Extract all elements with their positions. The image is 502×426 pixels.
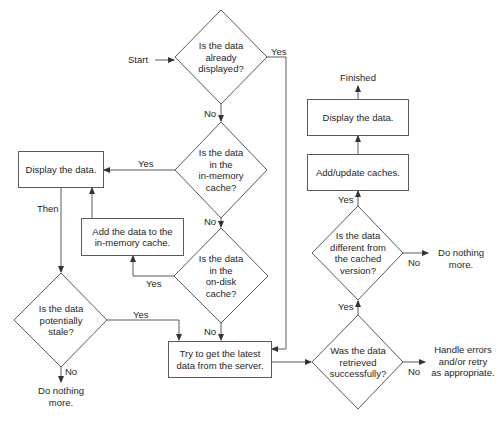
edge-label-disk-yes: Yes <box>146 278 162 289</box>
step-display-data-right: Display the data. <box>307 99 409 136</box>
edge-label-disk-no: No <box>204 326 216 337</box>
edge-label-displayed-no: No <box>204 108 216 119</box>
terminal-handle-errors: Handle errors and/or retry as appropriat… <box>425 344 501 379</box>
terminal-do-nothing-stale: Do nothing more. <box>26 385 96 408</box>
edge-label-memory-yes: Yes <box>138 158 154 169</box>
terminal-finished: Finished <box>328 72 388 84</box>
edge-label-stale-yes: Yes <box>133 309 149 320</box>
question-on-disk-cache: Is the data in the on-disk cache? <box>181 253 261 299</box>
question-potentially-stale: Is the data potentially stale? <box>21 303 101 338</box>
start-label: Start <box>128 54 148 65</box>
question-already-displayed: Is the data already displayed? <box>181 40 261 75</box>
step-display-data-left: Display the data. <box>18 151 104 188</box>
question-different-from-cached: Is the data different from the cached ve… <box>313 230 403 276</box>
edge-label-retrieved-no: No <box>408 366 420 377</box>
step-fetch-from-server: Try to get the latest data from the serv… <box>168 341 272 378</box>
edge-label-retrieved-yes: Yes <box>338 301 354 312</box>
question-retrieved-successfully: Was the data retrieved successfully? <box>313 345 403 380</box>
edge-label-displayed-yes: Yes <box>271 46 287 57</box>
question-in-memory-cache: Is the data in the in-memory cache? <box>181 147 261 193</box>
edge-label-memory-no: No <box>204 216 216 227</box>
flowchart-canvas: Start Is the data already displayed? Is … <box>0 0 502 426</box>
edge-label-different-no: No <box>408 257 420 268</box>
edge-label-stale-no: No <box>65 366 77 377</box>
step-add-to-memory-cache: Add the data to the in-memory cache. <box>81 218 184 256</box>
edge-label-then: Then <box>37 203 59 214</box>
step-update-caches: Add/update caches. <box>307 154 409 191</box>
terminal-do-nothing-same: Do nothing more. <box>428 247 494 270</box>
edge-label-different-yes: Yes <box>338 194 354 205</box>
